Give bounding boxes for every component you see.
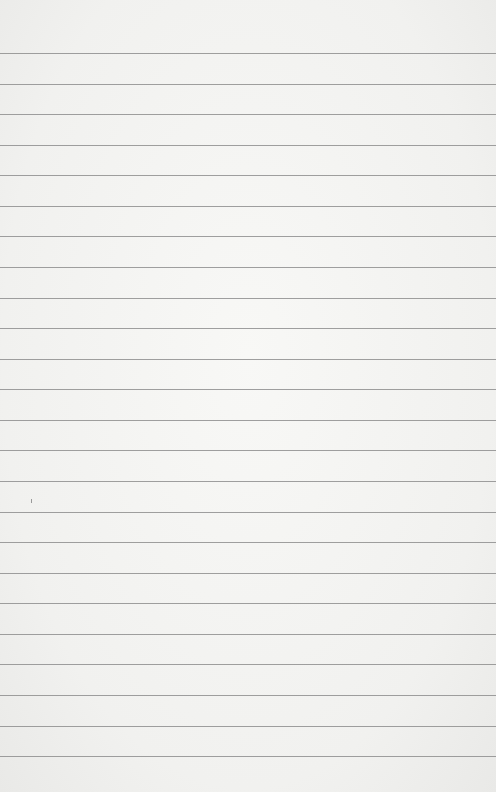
ruled-line — [0, 359, 496, 360]
ruled-line — [0, 573, 496, 574]
ruled-line — [0, 512, 496, 513]
ruled-line — [0, 420, 496, 421]
ruled-line — [0, 114, 496, 115]
ruled-line — [0, 481, 496, 482]
ruled-line — [0, 328, 496, 329]
ruled-line — [0, 664, 496, 665]
ruled-line — [0, 756, 496, 757]
ruled-line — [0, 726, 496, 727]
ruled-line — [0, 145, 496, 146]
ruled-line — [0, 206, 496, 207]
ruled-line — [0, 542, 496, 543]
ruled-line — [0, 450, 496, 451]
ruled-line — [0, 236, 496, 237]
ruled-line — [0, 175, 496, 176]
ruled-line — [0, 603, 496, 604]
ruled-line — [0, 389, 496, 390]
ruled-line — [0, 53, 496, 54]
lined-paper — [0, 0, 496, 792]
paper-speck — [31, 499, 32, 503]
ruled-line — [0, 84, 496, 85]
ruled-line — [0, 267, 496, 268]
ruled-line — [0, 695, 496, 696]
ruled-line — [0, 634, 496, 635]
ruled-line — [0, 298, 496, 299]
